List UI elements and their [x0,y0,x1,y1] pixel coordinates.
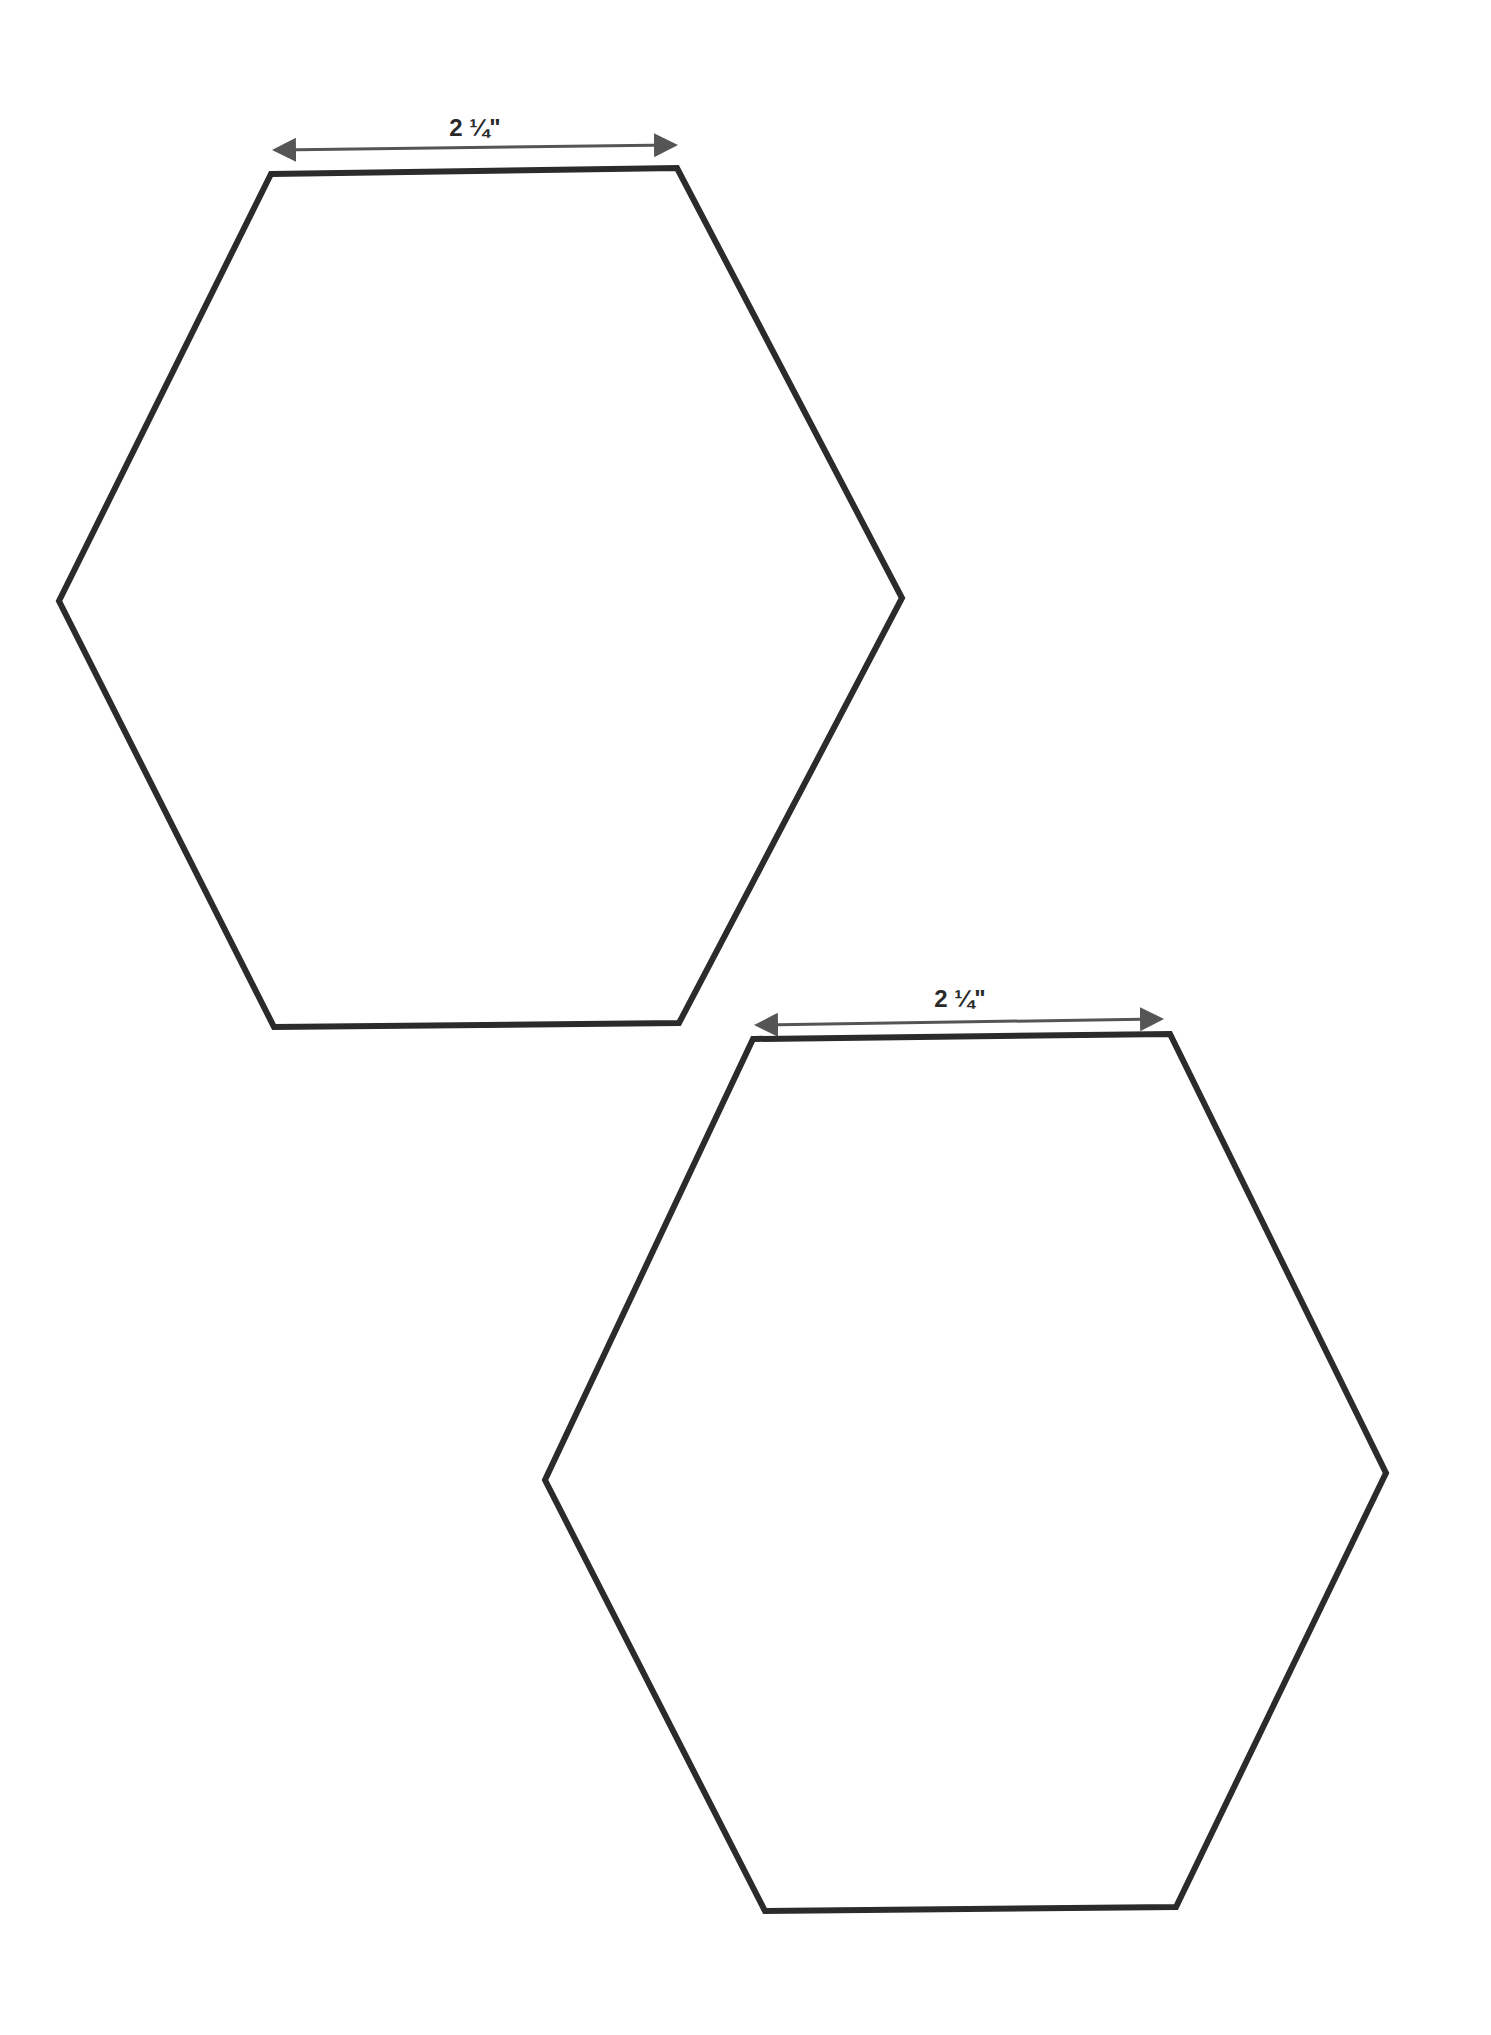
dimension-label-bottom: 2 ¼" [934,985,985,1013]
dimension-arrow-bottom [760,1019,1158,1025]
hexagon-diagram [0,0,1491,2035]
dimension-label-top: 2 ¼" [449,114,500,142]
hexagon-bottom [545,1034,1386,1911]
hexagon-top [59,168,902,1027]
dimension-arrow-top [278,145,672,150]
